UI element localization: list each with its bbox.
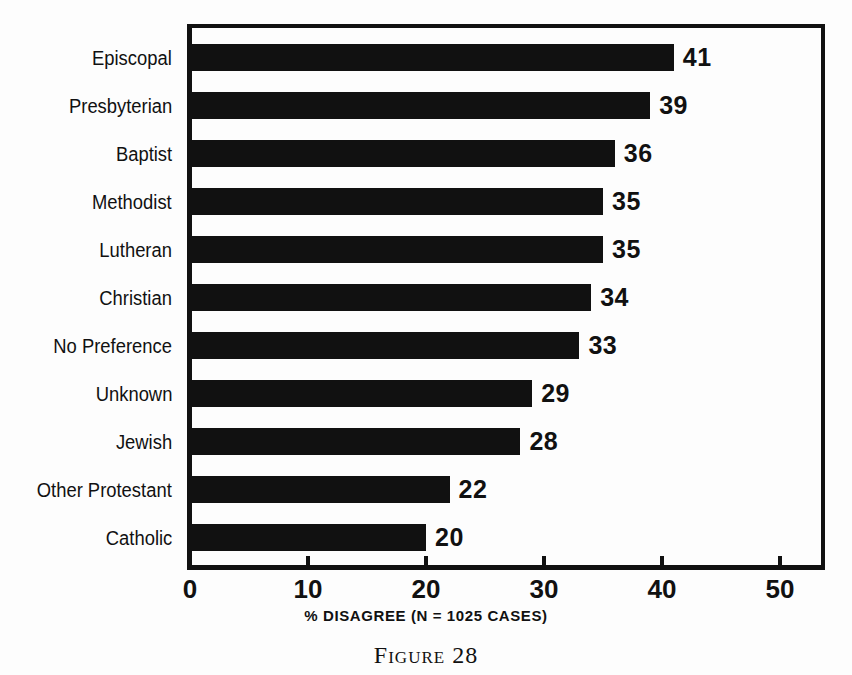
category-label-no-preference: No Preference: [53, 322, 172, 370]
bar-value-label: 41: [683, 38, 712, 76]
bar-unknown: [190, 380, 532, 407]
bar-jewish: [190, 428, 520, 455]
category-label-unknown: Unknown: [95, 370, 172, 418]
figure-container: EpiscopalPresbyterianBaptistMethodistLut…: [0, 0, 852, 675]
x-tick-mark: [778, 556, 782, 570]
bar-episcopal: [190, 44, 674, 71]
x-tick-label: 10: [294, 574, 323, 605]
bar-value-label: 35: [612, 230, 641, 268]
category-label-other-protestant: Other Protestant: [37, 466, 172, 514]
x-tick-label: 50: [766, 574, 795, 605]
bar-catholic: [190, 524, 426, 551]
bar-value-label: 29: [541, 374, 570, 412]
bar-value-label: 39: [659, 86, 688, 124]
x-axis-title: % DISAGREE (N = 1025 CASES): [0, 607, 852, 624]
category-label-presbyterian: Presbyterian: [69, 82, 172, 130]
bar-value-label: 20: [435, 518, 464, 556]
category-axis-labels: EpiscopalPresbyterianBaptistMethodistLut…: [0, 24, 180, 570]
bar-value-label: 34: [600, 278, 629, 316]
category-label-christian: Christian: [99, 274, 172, 322]
figure-caption: Figure 28: [0, 642, 852, 669]
bar-value-label: 22: [459, 470, 488, 508]
x-tick-label: 20: [412, 574, 441, 605]
bar-baptist: [190, 140, 615, 167]
category-label-baptist: Baptist: [116, 130, 172, 178]
x-tick-label: 40: [648, 574, 677, 605]
bar-no-preference: [190, 332, 579, 359]
bar-value-label: 28: [529, 422, 558, 460]
x-tick-mark: [660, 556, 664, 570]
bar-value-label: 35: [612, 182, 641, 220]
bar-lutheran: [190, 236, 603, 263]
x-tick-mark: [424, 556, 428, 570]
category-label-episcopal: Episcopal: [92, 34, 172, 82]
x-tick-label: 0: [183, 574, 197, 605]
category-label-lutheran: Lutheran: [99, 226, 172, 274]
bars-layer: 4139363535343329282220: [190, 24, 825, 570]
bar-presbyterian: [190, 92, 650, 119]
category-label-jewish: Jewish: [116, 418, 172, 466]
x-tick-label: 30: [530, 574, 559, 605]
bar-methodist: [190, 188, 603, 215]
category-label-methodist: Methodist: [92, 178, 172, 226]
bar-value-label: 36: [624, 134, 653, 172]
category-label-catholic: Catholic: [106, 514, 172, 562]
bar-other-protestant: [190, 476, 450, 503]
x-tick-mark: [542, 556, 546, 570]
bar-christian: [190, 284, 591, 311]
x-tick-mark: [306, 556, 310, 570]
bar-value-label: 33: [588, 326, 617, 364]
